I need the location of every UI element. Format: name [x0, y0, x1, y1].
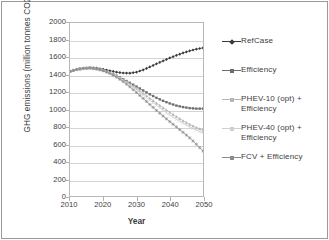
legend-label: FCV + Efficiency	[241, 152, 303, 162]
data-point-marker	[115, 71, 118, 74]
legend-dot	[229, 39, 235, 45]
data-point-marker	[158, 104, 161, 107]
data-point-marker	[195, 48, 198, 51]
data-point-marker	[151, 106, 154, 109]
data-point-marker	[198, 47, 201, 50]
legend-item-efficiency[interactable]: Efficiency	[222, 65, 326, 75]
legend-dot	[230, 127, 234, 131]
legend-marker-icon	[222, 66, 241, 75]
data-point-marker	[142, 68, 145, 71]
data-point-marker	[195, 107, 197, 109]
data-point-marker	[175, 104, 177, 106]
legend-item-fcv-efficiency[interactable]: FCV + Efficiency	[222, 152, 326, 162]
legend-marker-icon	[222, 37, 241, 46]
data-point-marker	[165, 101, 167, 103]
y-tick-label: 1000	[49, 106, 66, 114]
chart-figure: GHG emissions (million tonnes CO2e per y…	[0, 0, 329, 240]
data-point-marker	[182, 106, 184, 108]
legend-marker-icon	[222, 95, 241, 104]
data-point-marker	[145, 100, 148, 103]
data-point-marker	[165, 108, 168, 111]
data-point-marker	[158, 61, 161, 64]
data-point-marker	[115, 75, 118, 78]
data-point-marker	[142, 89, 144, 91]
data-point-marker	[102, 69, 105, 72]
data-point-marker	[125, 83, 128, 86]
data-point-marker	[118, 78, 121, 81]
data-point-marker	[185, 121, 188, 124]
data-point-marker	[198, 146, 201, 149]
x-tick-label: 2040	[162, 201, 179, 209]
data-point-marker	[172, 55, 175, 58]
data-point-marker	[182, 51, 185, 54]
data-point-marker	[188, 123, 191, 126]
data-point-marker	[75, 68, 78, 71]
data-point-marker	[195, 143, 198, 146]
data-point-marker	[168, 114, 171, 117]
data-point-marker	[189, 107, 191, 109]
data-point-marker	[158, 112, 161, 115]
data-point-marker	[162, 106, 165, 109]
data-point-marker	[92, 67, 95, 70]
legend-label: PHEV-10 (opt) + Efficiency	[241, 94, 302, 113]
data-point-marker	[165, 58, 168, 61]
data-point-marker	[131, 88, 134, 91]
data-point-marker	[155, 109, 158, 112]
data-point-marker	[85, 66, 88, 69]
data-point-marker	[182, 122, 185, 125]
data-point-marker	[185, 106, 187, 108]
legend-label: Efficiency	[241, 65, 277, 75]
data-point-marker	[138, 94, 141, 97]
y-tick-label: 2000	[49, 18, 66, 26]
data-point-marker	[78, 67, 81, 70]
data-point-marker	[175, 125, 178, 128]
data-point-marker	[188, 125, 191, 128]
data-point-marker	[172, 113, 175, 116]
data-point-marker	[145, 91, 147, 93]
plot-area	[69, 22, 204, 197]
legend-dot	[230, 98, 234, 102]
y-tick-label: 1400	[49, 71, 66, 79]
series-phev-10-opt-efficiency	[70, 66, 203, 131]
legend-item-refcase[interactable]: RefCase	[222, 36, 326, 46]
data-point-marker	[165, 117, 168, 120]
legend-label: RefCase	[241, 36, 273, 46]
legend-label: PHEV-40 (opt) + Efficiency	[241, 123, 302, 142]
data-point-marker	[175, 118, 178, 121]
data-point-marker	[119, 71, 122, 74]
legend-marker-icon	[222, 153, 241, 162]
data-point-marker	[185, 124, 188, 127]
data-point-marker	[195, 129, 198, 132]
data-point-marker	[145, 67, 148, 70]
data-point-marker	[178, 53, 181, 56]
series-line	[70, 68, 203, 151]
data-point-marker	[105, 70, 108, 73]
data-point-marker	[135, 71, 138, 74]
data-point-marker	[148, 103, 151, 106]
legend-item-phev-40-opt-efficiency[interactable]: PHEV-40 (opt) + Efficiency	[222, 123, 326, 142]
data-point-marker	[162, 59, 165, 62]
x-axis-tick-labels: 20102020203020402050	[69, 201, 204, 213]
series-fcv-efficiency	[70, 66, 203, 152]
data-point-marker	[112, 70, 115, 73]
data-point-marker	[155, 97, 157, 99]
data-point-marker	[162, 109, 165, 112]
series-refcase	[70, 46, 203, 74]
data-point-marker	[112, 74, 115, 77]
data-point-marker	[72, 69, 75, 72]
data-point-marker	[179, 105, 181, 107]
legend-dot	[230, 156, 234, 160]
data-point-marker	[138, 69, 141, 72]
data-point-marker	[152, 95, 154, 97]
y-tick-label: 1200	[49, 88, 66, 96]
data-point-marker	[175, 115, 178, 118]
data-point-marker	[135, 91, 138, 94]
data-point-marker	[172, 103, 174, 105]
data-point-marker	[122, 80, 125, 83]
data-point-marker	[141, 97, 144, 100]
data-point-marker	[122, 71, 125, 74]
data-point-marker	[192, 48, 195, 51]
legend-item-phev-10-opt-efficiency[interactable]: PHEV-10 (opt) + Efficiency	[222, 94, 326, 113]
data-point-marker	[178, 120, 181, 123]
data-point-marker	[158, 106, 161, 109]
